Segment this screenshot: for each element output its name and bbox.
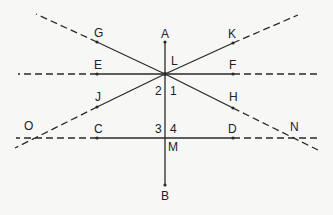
point-B: [163, 183, 166, 186]
ray-K-dashed: [233, 15, 298, 43]
label-F: F: [229, 59, 236, 71]
label-L: L: [171, 55, 178, 67]
point-D: [231, 136, 234, 139]
label-J: J: [95, 91, 101, 103]
point-J: [95, 105, 98, 108]
ray-H-dashed: [233, 108, 318, 150]
label-G: G: [94, 27, 103, 39]
point-G: [95, 40, 98, 43]
label-O: O: [24, 120, 33, 132]
angle-4: 4: [170, 123, 177, 135]
label-E: E: [94, 59, 102, 71]
angle-1: 1: [170, 85, 177, 97]
angle-3: 3: [155, 123, 162, 135]
label-M: M: [168, 141, 178, 153]
angle-2: 2: [155, 85, 162, 97]
label-B: B: [161, 190, 169, 202]
point-K: [231, 41, 234, 44]
point-F: [231, 72, 234, 75]
label-K: K: [228, 28, 236, 40]
label-H: H: [229, 91, 238, 103]
point-E: [95, 72, 98, 75]
point-C: [95, 136, 98, 139]
point-L: [163, 72, 167, 76]
label-A: A: [161, 28, 169, 40]
ray-G-dashed: [36, 14, 97, 42]
point-H: [231, 106, 234, 109]
segment-GL: [97, 42, 165, 74]
label-N: N: [290, 121, 299, 133]
label-D: D: [228, 123, 237, 135]
label-C: C: [94, 123, 103, 135]
